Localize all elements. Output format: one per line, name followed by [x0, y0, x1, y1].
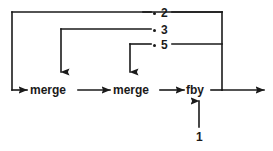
const2-bullet-dot	[153, 12, 156, 15]
node-label-merge-2: merge	[113, 84, 149, 96]
constant-label-3: 3	[161, 24, 168, 36]
diagram-canvas: merge merge fby 2 3 5 1	[0, 0, 273, 151]
edge-feedback-to-merge1	[12, 12, 222, 90]
constant-label-5: 5	[161, 39, 168, 51]
node-label-fby: fby	[186, 84, 204, 96]
edge-const5-to-merge2	[130, 44, 151, 72]
const3-bullet-dot	[153, 29, 156, 32]
edge-const3-to-merge1	[61, 29, 151, 72]
const5-bullet-dot	[153, 44, 156, 47]
constant-label-1: 1	[196, 131, 203, 143]
dataflow-diagram-svg	[0, 0, 273, 151]
constant-label-2: 2	[161, 7, 168, 19]
node-label-merge-1: merge	[30, 84, 66, 96]
